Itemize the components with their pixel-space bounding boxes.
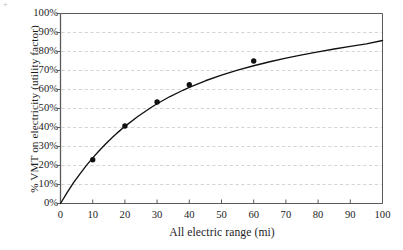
chart-figure: + % VMT on electricity (utility factor) … [0, 0, 403, 250]
fitted-curve [61, 40, 383, 203]
data-point-marker [90, 157, 95, 162]
data-point-marker [154, 99, 159, 104]
data-point-marker [187, 82, 192, 87]
data-point-marker [122, 123, 127, 128]
plot-area [0, 0, 403, 250]
data-point-marker [251, 58, 256, 63]
